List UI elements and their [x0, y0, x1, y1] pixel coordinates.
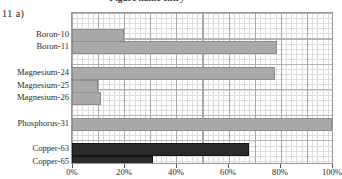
bar-phosphorus-31	[72, 118, 332, 131]
bar-magnesium-25	[72, 80, 98, 93]
bar-magnesium-26	[72, 92, 101, 105]
category-label-boron-10: Boron-10	[36, 29, 69, 40]
plot-area	[71, 12, 333, 164]
category-label-magnesium-26: Magnesium-26	[17, 92, 69, 103]
bar-magnesium-24	[72, 67, 275, 80]
category-axis-labels: Boron-10Boron-11Magnesium-24Magnesium-25…	[0, 12, 71, 164]
x-axis-tick-labels: 0%20%40%60%80%100%	[0, 167, 341, 179]
category-label-phosphorus-31: Phosphorus-31	[17, 118, 69, 129]
x-tick-label-60: 60%	[220, 167, 236, 178]
category-label-copper-65: Copper-65	[32, 156, 69, 167]
x-tick-label-20: 20%	[116, 167, 132, 178]
x-tick-label-0: 0%	[66, 167, 77, 178]
x-tick-label-40: 40%	[168, 167, 184, 178]
x-tick-label-100: 100%	[322, 167, 342, 178]
figure-title-clipped: Figure name entry	[47, 0, 247, 3]
category-label-copper-63: Copper-63	[32, 143, 69, 154]
x-tick-label-80: 80%	[272, 167, 288, 178]
bar-boron-10	[72, 29, 124, 42]
category-label-magnesium-25: Magnesium-25	[17, 80, 69, 91]
bar-boron-11	[72, 41, 277, 54]
bar-copper-65	[72, 156, 153, 164]
category-label-boron-11: Boron-11	[36, 41, 69, 52]
category-label-magnesium-24: Magnesium-24	[17, 67, 69, 78]
bar-copper-63	[72, 143, 249, 156]
